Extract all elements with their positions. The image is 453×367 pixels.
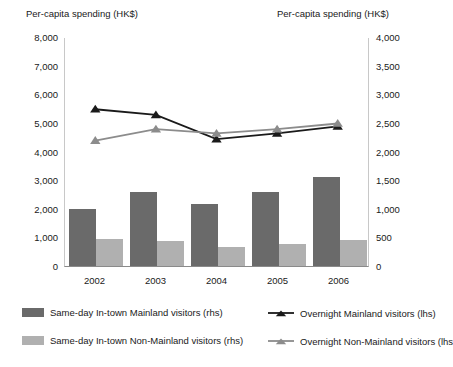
x-label-2005: 2005 [247, 275, 308, 291]
bar-2005-series-2 [279, 244, 306, 266]
legend-item-4[interactable]: Overnight Non-Mainland visitors (lhs [268, 335, 453, 347]
legend-label-3: Overnight Mainland visitors (lhs) [294, 308, 436, 319]
bar-2005-series-1 [252, 192, 279, 266]
left-tick-2: 6,000 [34, 90, 58, 100]
x-label-2003: 2003 [125, 275, 186, 291]
x-label-2006: 2006 [308, 275, 369, 291]
legend-item-2[interactable]: Same-day In-town Non-Mainland visitors (… [22, 335, 243, 346]
legend-swatch-icon-2 [22, 336, 44, 345]
left-tick-4: 4,000 [34, 148, 58, 158]
legend-label-4: Overnight Non-Mainland visitors (lhs [294, 336, 453, 347]
left-tick-5: 3,000 [34, 176, 58, 186]
left-tick-3: 5,000 [34, 119, 58, 129]
bar-group-2006 [309, 38, 370, 266]
chart-legend: Same-day In-town Mainland visitors (rhs)… [0, 303, 448, 363]
right-tick-8: 0 [376, 262, 381, 272]
right-tick-0: 4,000 [376, 33, 400, 43]
bar-2004-series-2 [218, 247, 245, 266]
bar-2003-series-1 [130, 192, 157, 266]
legend-label-2: Same-day In-town Non-Mainland visitors (… [44, 335, 243, 346]
legend-swatch-icon-1 [22, 308, 44, 317]
bar-group-2005 [248, 38, 309, 266]
bar-group-2003 [126, 38, 187, 266]
left-tick-8: 0 [53, 262, 58, 272]
x-axis-category-labels: 20022003200420052006 [64, 275, 369, 291]
bar-group-2002 [65, 38, 126, 266]
bar-2006-series-2 [340, 240, 367, 266]
right-tick-6: 1,000 [376, 205, 400, 215]
legend-line-marker-icon-3 [268, 307, 294, 319]
legend-item-3[interactable]: Overnight Mainland visitors (lhs) [268, 307, 436, 319]
legend-line-marker-icon-4 [268, 335, 294, 347]
bar-2002-series-1 [69, 209, 96, 266]
bar-group-2004 [187, 38, 248, 266]
right-tick-2: 3,000 [376, 90, 400, 100]
plot-area [64, 38, 369, 267]
x-label-2004: 2004 [186, 275, 247, 291]
right-axis-title: Per-capita spending (HK$) [277, 8, 389, 19]
left-axis-tick-labels: 8,0007,0006,0005,0004,0003,0002,0001,000… [0, 38, 58, 267]
left-tick-0: 8,000 [34, 33, 58, 43]
right-axis-tick-labels: 4,0003,5003,0002,5002,0001,5001,0005000 [376, 38, 436, 267]
bar-2002-series-2 [96, 239, 123, 266]
legend-item-1[interactable]: Same-day In-town Mainland visitors (rhs) [22, 307, 223, 318]
left-tick-6: 2,000 [34, 205, 58, 215]
right-tick-1: 3,500 [376, 62, 400, 72]
bar-2006-series-1 [313, 177, 340, 266]
left-axis-title: Per-capita spending (HK$) [26, 8, 138, 19]
bar-2003-series-2 [157, 241, 184, 266]
x-label-2002: 2002 [64, 275, 125, 291]
right-tick-5: 1,500 [376, 176, 400, 186]
legend-label-1: Same-day In-town Mainland visitors (rhs) [44, 307, 223, 318]
bar-2004-series-1 [191, 204, 218, 266]
left-tick-1: 7,000 [34, 62, 58, 72]
left-tick-7: 1,000 [34, 233, 58, 243]
right-tick-7: 500 [376, 233, 392, 243]
right-tick-3: 2,500 [376, 119, 400, 129]
right-tick-4: 2,000 [376, 148, 400, 158]
